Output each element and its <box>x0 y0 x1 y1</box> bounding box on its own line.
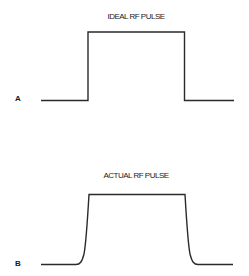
panel-label-b: B <box>15 260 21 268</box>
panel-label-a: A <box>15 95 21 103</box>
actual-pulse-title: ACTUAL RF PULSE <box>103 172 168 180</box>
ideal-pulse-title: IDEAL RF PULSE <box>107 13 164 21</box>
actual-pulse-waveform <box>41 195 233 265</box>
pulse-waveforms <box>0 0 249 276</box>
rf-pulse-diagram: IDEAL RF PULSE A ACTUAL RF PULSE B <box>0 0 249 276</box>
ideal-pulse-waveform <box>41 32 234 101</box>
